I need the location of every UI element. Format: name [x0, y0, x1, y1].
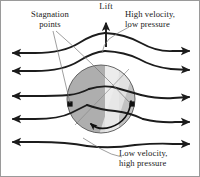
- label-high-velocity-line2: low pressure: [125, 20, 200, 30]
- label-stagnation-line2: points: [19, 20, 81, 30]
- label-stagnation-points: Stagnation points: [19, 10, 81, 29]
- label-lift: Lift: [87, 2, 125, 12]
- streamlines-right: [135, 51, 189, 145]
- stagnation-dot-right: [129, 101, 134, 106]
- label-lift-line1: Lift: [87, 2, 125, 12]
- figure-magnus-effect: Stagnation points Lift High velocity, lo…: [0, 0, 200, 177]
- label-low-velocity-line2: high pressure: [119, 159, 199, 169]
- label-high-velocity: High velocity, low pressure: [125, 10, 200, 29]
- label-low-velocity: Low velocity, high pressure: [119, 149, 199, 168]
